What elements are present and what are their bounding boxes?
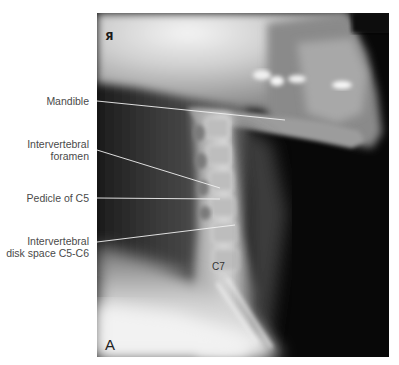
xray-rendering (97, 13, 389, 357)
vertebra-label-c7: C7 (212, 261, 225, 272)
label-line: Intervertebral (6, 235, 89, 247)
panel-letter: A (105, 336, 115, 353)
label-line: Pedicle of C5 (27, 192, 89, 204)
label-disk-space: Intervertebral disk space C5-C6 (6, 235, 89, 259)
side-marker-r: Я (105, 30, 113, 43)
label-mandible: Mandible (46, 95, 89, 107)
label-intervertebral-foramen: Intervertebral foramen (27, 138, 89, 162)
radiograph-figure: Я C7 A Mandible Intervertebral foramen P… (0, 0, 399, 365)
label-line: Intervertebral (27, 138, 89, 150)
xray-image: Я C7 A (97, 13, 389, 357)
label-line: Mandible (46, 95, 89, 107)
label-line: foramen (27, 150, 89, 162)
label-line: disk space C5-C6 (6, 247, 89, 259)
label-pedicle-c5: Pedicle of C5 (27, 192, 89, 204)
